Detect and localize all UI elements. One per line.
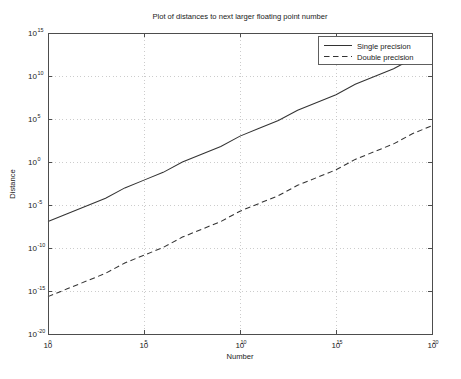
x-tick-label: 1020 [427,339,438,350]
tick-exponent: 15 [337,339,343,345]
x-axis-tick-labels: 100105101010151020 [43,339,438,350]
tick-exponent: -15 [38,285,46,291]
tick-mantissa: 10 [28,244,37,253]
tick-mantissa: 10 [28,72,37,81]
y-tick-label: 1010 [28,70,43,81]
x-tick-label: 100 [43,339,52,350]
tick-mantissa: 10 [28,330,37,339]
tick-mantissa: 10 [28,29,37,38]
tick-exponent: -10 [38,242,46,248]
tick-exponent: 10 [241,339,247,345]
y-tick-label: 10-15 [28,285,45,296]
legend-label-double-precision: Double precision [357,53,414,62]
chart-canvas: Plot of distances to next larger floatin… [0,0,461,379]
tick-exponent: -20 [38,328,46,334]
tick-exponent: -5 [38,199,43,205]
y-tick-label: 10-5 [28,199,42,210]
legend: Single precision Double precision [318,36,432,64]
x-tick-label: 1010 [235,339,246,350]
figure-container: Plot of distances to next larger floatin… [0,0,461,379]
y-tick-label: 10-20 [28,328,45,339]
y-tick-label: 105 [28,113,40,124]
x-axis-label: Number [226,352,253,361]
tick-exponent: 20 [433,339,439,345]
tick-exponent: 5 [38,113,41,119]
x-tick-label: 105 [139,339,148,350]
y-axis-label: Distance [8,169,17,199]
tick-mantissa: 10 [28,201,37,210]
tick-exponent: 0 [49,339,52,345]
y-axis-tick-labels: 1015101010510010-510-1010-1510-20 [28,27,45,339]
tick-exponent: 15 [38,27,44,33]
chart-title: Plot of distances to next larger floatin… [152,12,328,21]
tick-mantissa: 10 [28,287,37,296]
x-tick-label: 1015 [331,339,342,350]
tick-exponent: 10 [38,70,44,76]
y-tick-label: 100 [28,156,40,167]
y-tick-label: 1015 [28,27,43,38]
tick-mantissa: 10 [28,115,37,124]
legend-label-single-precision: Single precision [357,42,411,51]
tick-exponent: 5 [145,339,148,345]
tick-exponent: 0 [38,156,41,162]
y-tick-label: 10-10 [28,242,45,253]
tick-mantissa: 10 [28,158,37,167]
